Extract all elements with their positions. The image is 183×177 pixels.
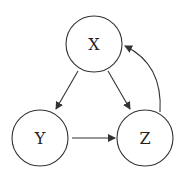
edge-x-y bbox=[56, 71, 78, 109]
node-z-label: Z bbox=[139, 129, 150, 148]
edge-x-z bbox=[108, 71, 130, 109]
node-z: Z bbox=[117, 110, 173, 166]
causal-diagram: X Y Z bbox=[0, 0, 183, 177]
node-x: X bbox=[66, 16, 122, 72]
node-y-label: Y bbox=[34, 129, 46, 148]
node-y: Y bbox=[12, 110, 68, 166]
node-x-label: X bbox=[88, 35, 100, 54]
edge-z-x bbox=[125, 46, 160, 112]
